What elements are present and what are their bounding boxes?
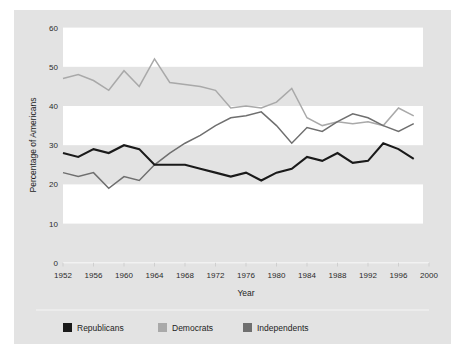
x-tick-1972: 1972: [207, 271, 225, 280]
x-axis-title: Year: [237, 288, 254, 298]
y-tick-50: 50: [49, 63, 58, 72]
y-tick-30: 30: [49, 141, 58, 150]
line-chart-svg: 0 10 20 30 40 50 60 1952 1956 1960 1964 …: [14, 10, 451, 344]
x-tick-1952: 1952: [54, 271, 72, 280]
background-bands: [63, 28, 423, 224]
x-tick-1956: 1956: [85, 271, 103, 280]
legend-label-independents: Independents: [257, 323, 309, 333]
y-axis-title: Percentage of Americans: [28, 98, 38, 193]
y-tick-10: 10: [49, 220, 58, 229]
legend-swatch-independents: [243, 323, 252, 332]
legend-swatch-republicans: [63, 323, 72, 332]
y-tick-labels: 0 10 20 30 40 50 60: [49, 24, 58, 268]
x-tick-1988: 1988: [329, 271, 347, 280]
y-tick-20: 20: [49, 180, 58, 189]
x-tick-2000: 2000: [420, 271, 438, 280]
y-tick-60: 60: [49, 24, 58, 33]
x-tick-1960: 1960: [115, 271, 133, 280]
x-tick-1964: 1964: [146, 271, 164, 280]
series-line-republicans: [63, 143, 414, 180]
x-tick-1976: 1976: [237, 271, 255, 280]
legend-swatch-democrats: [158, 323, 167, 332]
x-tick-1980: 1980: [268, 271, 286, 280]
legend-label-republicans: Republicans: [77, 323, 124, 333]
x-tick-labels: 1952 1956 1960 1964 1968 1972 1976 1980 …: [54, 271, 438, 280]
y-tick-0: 0: [54, 259, 59, 268]
x-tick-1996: 1996: [390, 271, 408, 280]
chart-figure: 0 10 20 30 40 50 60 1952 1956 1960 1964 …: [0, 0, 465, 352]
legend-label-democrats: Democrats: [172, 323, 213, 333]
x-tick-1968: 1968: [176, 271, 194, 280]
y-tick-40: 40: [49, 102, 58, 111]
chart-legend: Republicans Democrats Independents: [63, 323, 309, 333]
chart-panel: 0 10 20 30 40 50 60 1952 1956 1960 1964 …: [14, 10, 451, 344]
x-tick-1984: 1984: [298, 271, 316, 280]
x-tick-1992: 1992: [359, 271, 377, 280]
